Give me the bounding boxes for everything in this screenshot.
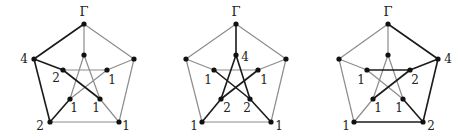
vertex-label: 2	[36, 119, 44, 133]
graph-3: Γ4121112	[336, 4, 452, 133]
vertex-inner-left	[364, 67, 369, 72]
edge-outer-left-to-inner-left	[186, 59, 214, 70]
vertex-label: 1	[122, 119, 130, 133]
vertex-label: 2	[427, 119, 435, 133]
vertex-label: 2	[243, 101, 251, 115]
edge-outer-left-to-outer-bottom-left	[186, 59, 202, 122]
vertex-outer-left	[336, 56, 341, 61]
vertex-inner-right	[104, 67, 109, 72]
edge-outer-bottom-right-to-inner-bottom-right	[403, 99, 423, 122]
edge-outer-bottom-right-to-inner-bottom-right	[250, 99, 271, 122]
graph-2: Γ4112211	[183, 4, 288, 133]
vertex-inner-top	[233, 52, 238, 57]
vertex-label: 4	[444, 52, 452, 66]
edge-outer-left-to-outer-bottom-left	[339, 59, 354, 122]
vertex-label: 1	[70, 101, 78, 115]
vertex-outer-left	[183, 56, 188, 61]
petersen-graph-diagram: Γ4211121 Γ4112211 Γ4121112	[0, 0, 471, 140]
edge-outer-bottom-left-to-inner-bottom-left	[202, 99, 221, 122]
vertex-label: 1	[374, 101, 382, 115]
vertex-outer-right	[435, 56, 440, 61]
edge-outer-right-to-inner-right	[258, 59, 286, 70]
vertex-outer-bottom-left	[351, 119, 356, 124]
vertex-label: 2	[223, 101, 231, 115]
vertex-inner-right	[255, 67, 260, 72]
vertex-inner-left	[211, 67, 216, 72]
vertex-inner-left	[60, 67, 65, 72]
vertex-outer-left	[31, 56, 36, 61]
vertex-label: 1	[260, 73, 268, 87]
vertex-label: 4	[241, 50, 249, 64]
vertex-outer-bottom-left	[199, 119, 204, 124]
edge-outer-left-to-inner-left	[339, 59, 367, 70]
vertex-outer-right	[131, 56, 136, 61]
vertex-inner-right	[407, 67, 412, 72]
vertex-label: 2	[411, 73, 419, 87]
vertex-label: 1	[275, 119, 283, 133]
edge-outer-bottom-right-to-inner-bottom-right	[100, 99, 119, 122]
root-label: Γ	[231, 4, 240, 19]
vertex-outer-bottom-right	[268, 119, 273, 124]
edge-outer-top-to-outer-left	[34, 24, 84, 59]
edge-outer-right-to-outer-bottom-right	[119, 59, 134, 122]
vertex-outer-top	[81, 21, 86, 26]
vertex-label: 1	[342, 119, 350, 133]
edge-outer-right-to-outer-bottom-right	[271, 59, 286, 122]
vertex-label: 1	[108, 73, 116, 87]
vertex-outer-bottom-right	[420, 119, 425, 124]
vertex-inner-top	[81, 52, 86, 57]
vertex-label: 4	[20, 52, 28, 66]
vertex-outer-top	[385, 21, 390, 26]
edge-inner-right-to-inner-bottom-left	[70, 70, 107, 99]
root-label: Γ	[383, 4, 392, 19]
vertex-label: 1	[190, 119, 198, 133]
edge-outer-right-to-inner-right	[107, 59, 134, 70]
edge-outer-right-to-inner-right	[410, 59, 438, 70]
vertex-outer-top	[233, 21, 238, 26]
edge-outer-left-to-inner-left	[34, 59, 63, 70]
vertex-outer-bottom-right	[116, 119, 121, 124]
edge-outer-right-to-outer-bottom-right	[423, 59, 438, 122]
vertex-label: 2	[52, 71, 60, 85]
vertex-label: 1	[395, 101, 403, 115]
edge-outer-bottom-left-to-inner-bottom-left	[354, 99, 373, 122]
edge-outer-left-to-outer-bottom-left	[34, 59, 50, 122]
vertex-outer-right	[283, 56, 288, 61]
vertex-label: 1	[204, 73, 212, 87]
edge-outer-top-to-outer-right	[84, 24, 134, 59]
edge-outer-top-to-outer-right	[388, 24, 438, 59]
graph-1: Γ4211121	[20, 4, 136, 133]
edge-outer-bottom-left-to-inner-bottom-left	[50, 99, 70, 122]
edge-outer-top-to-outer-left	[186, 24, 236, 59]
vertex-label: 1	[92, 101, 100, 115]
vertex-outer-bottom-left	[47, 119, 52, 124]
edge-outer-top-to-outer-left	[339, 24, 388, 59]
vertex-inner-top	[385, 52, 390, 57]
vertex-label: 1	[357, 73, 365, 87]
root-label: Γ	[79, 4, 88, 19]
